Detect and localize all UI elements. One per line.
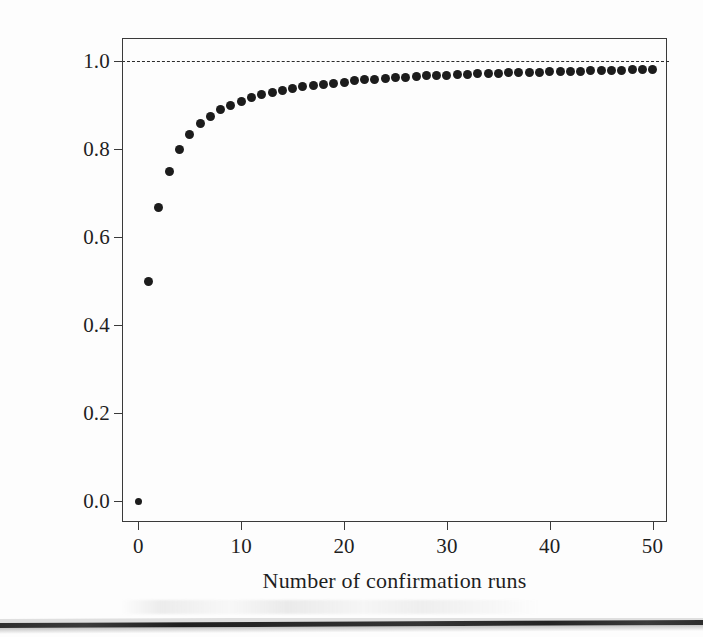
data-point — [298, 82, 307, 91]
data-point — [144, 277, 153, 286]
data-point — [453, 70, 462, 79]
x-axis-tick-mark — [550, 521, 551, 530]
data-point — [309, 81, 318, 90]
y-axis-tick-mark — [114, 413, 123, 414]
data-point — [545, 67, 554, 76]
data-point — [432, 71, 441, 80]
x-axis-tick-mark — [138, 521, 139, 530]
data-point — [412, 72, 421, 81]
y-axis-tick-label: 0.6 — [83, 225, 110, 250]
data-point — [237, 97, 246, 106]
y-axis-title: Probability of detecting an issue — [12, 0, 42, 68]
data-point — [504, 68, 513, 77]
scanned-page: Probability of detecting an issue 0.00.2… — [0, 0, 703, 637]
data-point — [340, 78, 349, 87]
y-axis-tick-mark — [114, 61, 123, 62]
y-axis-tick-label: 0.4 — [83, 313, 110, 338]
data-point — [196, 119, 205, 128]
data-point — [226, 101, 235, 110]
data-point — [216, 105, 225, 114]
y-axis-tick-mark — [114, 149, 123, 150]
data-point — [278, 86, 287, 95]
y-axis-title-text: Probability of detecting an issue — [12, 0, 42, 68]
data-point — [288, 84, 297, 93]
data-point — [422, 71, 431, 80]
data-point — [370, 75, 379, 84]
data-point — [628, 65, 637, 74]
data-point — [586, 66, 595, 75]
chart-figure: Probability of detecting an issue 0.00.2… — [0, 0, 703, 612]
data-point — [206, 112, 215, 121]
data-point — [391, 73, 400, 82]
data-point — [494, 69, 503, 78]
y-axis-tick-mark — [114, 237, 123, 238]
x-axis-tick-label: 30 — [436, 534, 457, 559]
y-axis-tick-label: 0.0 — [83, 489, 110, 514]
data-point — [381, 74, 390, 83]
data-point — [617, 66, 626, 75]
data-point — [607, 66, 616, 75]
data-point — [597, 66, 606, 75]
data-point — [648, 65, 657, 74]
data-point — [576, 67, 585, 76]
scan-artifact-band — [0, 618, 703, 637]
y-axis-tick-label: 1.0 — [83, 49, 110, 74]
data-point — [154, 203, 163, 212]
data-point — [442, 71, 451, 80]
data-point — [268, 88, 277, 97]
x-axis-title: Number of confirmation runs — [122, 568, 667, 594]
data-point — [525, 68, 534, 77]
plot-area — [123, 39, 666, 521]
data-point — [329, 79, 338, 88]
data-point — [566, 67, 575, 76]
data-point — [165, 167, 174, 176]
y-axis-tick-mark — [114, 501, 123, 502]
x-axis-tick-mark — [344, 521, 345, 530]
data-point — [535, 68, 544, 77]
data-point — [514, 68, 523, 77]
asymptote-dashed-line — [122, 61, 669, 62]
x-axis-tick-label: 10 — [231, 534, 252, 559]
x-axis-tick-label: 40 — [539, 534, 560, 559]
data-point — [257, 90, 266, 99]
data-point — [350, 76, 359, 85]
data-point — [185, 130, 194, 139]
x-axis-tick-label: 20 — [333, 534, 354, 559]
plot-frame: 0.00.20.40.60.81.0 01020304050 — [122, 38, 667, 522]
data-point — [473, 69, 482, 78]
x-axis-tick-label: 50 — [642, 534, 663, 559]
data-point — [556, 67, 565, 76]
y-axis-tick-label: 0.2 — [83, 401, 110, 426]
data-point — [638, 65, 647, 74]
data-point — [484, 69, 493, 78]
data-point — [319, 80, 328, 89]
x-axis-tick-mark — [653, 521, 654, 530]
data-point — [463, 70, 472, 79]
x-axis-tick-label: 0 — [133, 534, 144, 559]
x-axis-tick-mark — [241, 521, 242, 530]
x-axis-tick-mark — [447, 521, 448, 530]
data-point — [175, 145, 184, 154]
data-point — [135, 498, 142, 505]
data-point — [360, 75, 369, 84]
scan-ghost-smudge — [120, 600, 540, 614]
data-point — [247, 93, 256, 102]
data-point — [401, 73, 410, 82]
y-axis-tick-label: 0.8 — [83, 137, 110, 162]
y-axis-tick-mark — [114, 325, 123, 326]
